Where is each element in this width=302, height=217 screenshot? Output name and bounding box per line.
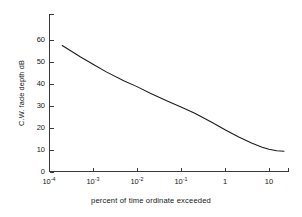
y-axis-label-wrapper: C.W. fade depth dB	[15, 0, 27, 186]
y-axis-label: C.W. fade depth dB	[17, 60, 26, 126]
y-tick-label: 50	[27, 58, 45, 66]
data-curve-group	[62, 46, 284, 152]
y-tick-label: 10	[27, 146, 45, 154]
x-axis-label: percent of time ordinate exceeded	[0, 196, 302, 205]
y-tick-label: 40	[27, 80, 45, 88]
x-tick-label: 1	[223, 178, 227, 186]
tick-marks-group	[50, 41, 270, 173]
y-tick-label: 20	[27, 124, 45, 132]
fade-depth-curve	[62, 46, 284, 152]
x-tick-label: 10-4	[42, 178, 55, 186]
y-tick-label: 30	[27, 102, 45, 110]
axes-group	[49, 14, 289, 172]
y-tick-label: 0	[27, 168, 45, 176]
x-tick-label: 10	[265, 178, 273, 186]
y-tick-label: 60	[27, 36, 45, 44]
x-tick-label: 10-2	[130, 178, 143, 186]
chart-figure: 0102030405060 10-410-310-210-1110 C.W. f…	[0, 0, 302, 217]
x-tick-label: 10-3	[86, 178, 99, 186]
x-tick-label: 10-1	[174, 178, 187, 186]
